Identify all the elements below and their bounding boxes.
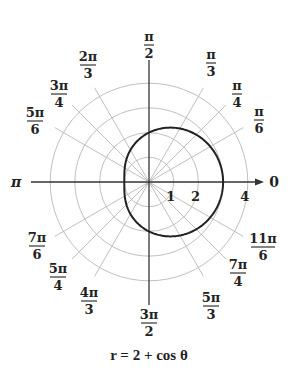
angle-label-denominator: 6: [32, 247, 41, 262]
angle-label: 7π4: [229, 257, 248, 289]
grid-spoke: [95, 182, 149, 276]
angle-label-denominator: 4: [232, 95, 241, 110]
grid-spoke: [55, 128, 149, 182]
angle-label: π3: [206, 47, 216, 79]
angle-label-numerator: 7π: [229, 257, 248, 272]
angle-label: 5π6: [26, 105, 45, 137]
radial-tick-labels: 124: [166, 189, 249, 204]
angle-label-numerator: 4π: [80, 285, 99, 300]
angle-label: 0: [269, 174, 279, 190]
angle-label-numerator: 7π: [28, 230, 47, 245]
radial-tick-label: 4: [240, 189, 249, 204]
grid-spoke: [72, 105, 149, 182]
grid-spoke: [95, 88, 149, 182]
angle-label-numerator: 2π: [79, 49, 98, 64]
polar-plot: 0π6π4π3π22π33π45π6π7π65π44π33π25π37π411π…: [0, 0, 290, 370]
angle-label: 3π4: [50, 78, 69, 110]
angle-label-denominator: 4: [53, 278, 62, 293]
angle-label: 2π3: [79, 49, 98, 81]
angle-label: 5π3: [202, 290, 221, 322]
radial-tick-label: 1: [166, 189, 175, 204]
angle-label: π: [10, 174, 22, 190]
angle-label: π2: [144, 29, 154, 61]
angle-label: 11π6: [249, 231, 277, 263]
angle-label-denominator: 2: [144, 324, 153, 339]
angle-label-numerator: π: [144, 29, 154, 44]
grid-spoke: [149, 105, 226, 182]
radial-tick-label: 2: [191, 189, 200, 204]
angle-label-numerator: π: [206, 47, 216, 62]
angle-label: 5π4: [49, 261, 68, 293]
axis-arrow-icon: [255, 179, 264, 186]
angle-label-numerator: 3π: [140, 307, 159, 322]
angle-label-numerator: π: [232, 78, 242, 93]
angle-label-denominator: 3: [83, 66, 92, 81]
angle-label: 7π6: [28, 230, 47, 262]
angle-label-denominator: 6: [30, 122, 39, 137]
angle-label-denominator: 4: [54, 95, 63, 110]
angle-label-numerator: 5π: [49, 261, 68, 276]
angle-label: 4π3: [80, 285, 99, 317]
equation-caption: r = 2 + cos θ: [110, 347, 188, 363]
angle-label-denominator: 3: [206, 307, 215, 322]
grid-spoke: [149, 182, 226, 259]
angle-label-denominator: 2: [144, 46, 153, 61]
angle-label-denominator: 3: [206, 64, 215, 79]
angle-label-text: 0: [269, 174, 279, 190]
grid-spoke: [55, 182, 149, 236]
angle-label-numerator: 5π: [202, 290, 221, 305]
angle-label-denominator: 6: [258, 248, 267, 263]
angle-label-numerator: 11π: [249, 231, 277, 246]
angle-label: π6: [254, 104, 264, 136]
angle-label-denominator: 4: [233, 274, 242, 289]
angle-label-numerator: π: [254, 104, 264, 119]
angle-label-text: π: [10, 174, 22, 190]
angle-label: 3π2: [140, 307, 159, 339]
angle-label-denominator: 3: [84, 302, 93, 317]
angle-label: π4: [232, 78, 242, 110]
angle-label-numerator: 5π: [26, 105, 45, 120]
grid-spoke: [72, 182, 149, 259]
angle-label-numerator: 3π: [50, 78, 69, 93]
angle-label-denominator: 6: [254, 121, 263, 136]
